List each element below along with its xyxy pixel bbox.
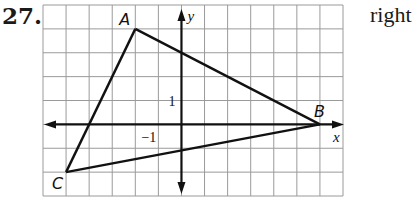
coordinate-graph: x y 1 −1 A B C [0,0,418,197]
y-axis-arrow-down-icon [177,182,185,194]
x-axis-arrow-left-icon [44,120,56,128]
vertex-label-c: C [52,174,64,193]
vertex-label-b: B [314,102,325,121]
x-axis-label: x [332,129,340,145]
y-axis-label: y [185,8,194,24]
tick-label-x-neg1: −1 [141,130,156,145]
vertex-label-a: A [118,10,130,29]
tick-label-y-1: 1 [168,94,175,109]
y-axis-arrow-up-icon [177,9,185,21]
x-axis-arrow-right-icon [332,120,344,128]
